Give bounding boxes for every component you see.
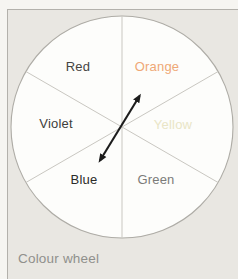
colour-wheel: Red Orange Yellow Green Blue Violet [0, 0, 238, 279]
segment-label-yellow: Yellow [154, 117, 193, 132]
figure-scan: Red Orange Yellow Green Blue Violet Colo… [0, 0, 238, 279]
segment-label-blue: Blue [71, 172, 98, 187]
segment-label-violet: Violet [39, 116, 73, 131]
segment-label-green: Green [137, 172, 174, 187]
segment-label-orange: Orange [135, 59, 180, 74]
figure-caption: Colour wheel [18, 251, 99, 266]
segment-label-red: Red [66, 59, 90, 74]
